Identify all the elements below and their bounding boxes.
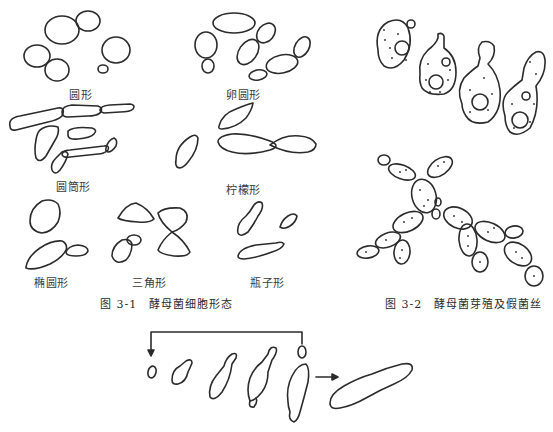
feedback-arrow-line — [151, 332, 302, 354]
label-round: 圆形 — [69, 86, 92, 102]
label-triangular: 三角形 — [132, 274, 167, 290]
caption-title: 酵母菌芽殖及假菌丝 — [434, 298, 542, 311]
label-oval: 卵圆形 — [226, 86, 261, 102]
label-flask: 瓶子形 — [250, 274, 285, 290]
label-lemon: 柠檬形 — [226, 181, 261, 197]
lemon-cells — [176, 103, 316, 168]
caption-number: 图 3-1 — [100, 298, 137, 311]
caption-figure-3-2: 图 3-2酵母菌芽殖及假菌丝 — [385, 295, 542, 311]
round-cells — [24, 11, 130, 81]
caption-figure-3-1: 图 3-1酵母菌细胞形态 — [100, 295, 233, 311]
caption-title: 酵母菌细胞形态 — [149, 298, 233, 311]
flask-cells — [238, 202, 297, 259]
pseudohyphae — [356, 152, 543, 286]
label-elliptical: 椭圆形 — [34, 274, 69, 290]
budding-cells — [377, 20, 545, 134]
feedback-arrow-head — [148, 350, 154, 356]
elliptical-cells — [26, 200, 88, 269]
budding-sequence — [147, 332, 413, 422]
triangular-cells — [112, 203, 190, 262]
label-cylindrical: 圆筒形 — [56, 178, 91, 194]
caption-number: 图 3-2 — [385, 298, 422, 311]
cylindrical-cells — [10, 104, 134, 173]
yeast-morphology-illustration — [0, 0, 553, 432]
oval-cells — [195, 13, 314, 81]
